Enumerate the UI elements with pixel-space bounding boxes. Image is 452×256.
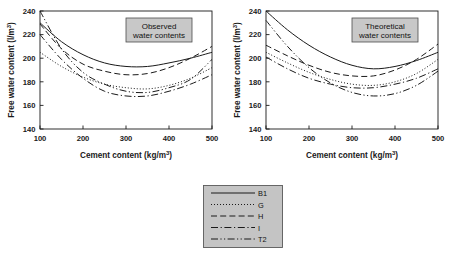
legend-label-g: G xyxy=(258,201,264,210)
x-tick-label: 400 xyxy=(389,134,402,143)
legend-label-b1: B1 xyxy=(258,189,267,198)
y-tick-label: 220 xyxy=(23,30,36,39)
legend-label-h: H xyxy=(258,212,263,221)
y-tick-label: 200 xyxy=(23,54,36,63)
y-axis-title: Free water content (l/m3) xyxy=(6,22,16,118)
panels-container: 100200300400500140160180200220240Cement … xyxy=(0,0,452,170)
x-tick-label: 100 xyxy=(34,134,47,143)
panel-title-line2: water contents xyxy=(358,31,411,40)
y-tick-label: 180 xyxy=(23,78,36,87)
y-axis-title: Free water content (l/m3) xyxy=(232,22,242,118)
chart-panel-theoretical: 100200300400500140160180200220240Cement … xyxy=(226,0,452,170)
panel-title-line1: Theoretical xyxy=(365,22,405,31)
y-tick-label: 160 xyxy=(23,101,36,110)
y-tick-label: 180 xyxy=(249,78,262,87)
x-tick-label: 200 xyxy=(303,134,316,143)
y-tick-label: 240 xyxy=(23,7,36,16)
series-line-h xyxy=(266,44,438,76)
y-tick-label: 140 xyxy=(249,125,262,134)
panel-title-line2: water contents xyxy=(132,31,185,40)
figure-root: 100200300400500140160180200220240Cement … xyxy=(0,0,452,256)
legend-label-t2: T2 xyxy=(258,235,267,244)
x-tick-label: 500 xyxy=(432,134,445,143)
chart-panel-observed: 100200300400500140160180200220240Cement … xyxy=(0,0,226,170)
x-tick-label: 100 xyxy=(260,134,273,143)
series-line-g xyxy=(266,52,438,85)
series-line-g xyxy=(40,52,212,89)
legend-label-i: I xyxy=(258,224,260,233)
panel-title-line1: Observed xyxy=(142,22,177,31)
y-tick-label: 220 xyxy=(249,30,262,39)
x-tick-label: 200 xyxy=(77,134,90,143)
x-tick-label: 300 xyxy=(346,134,359,143)
x-tick-label: 500 xyxy=(206,134,219,143)
legend-container: B1GHIT2 xyxy=(0,176,452,256)
x-tick-label: 400 xyxy=(163,134,176,143)
y-tick-label: 200 xyxy=(249,54,262,63)
y-tick-label: 240 xyxy=(249,7,262,16)
y-tick-label: 160 xyxy=(249,101,262,110)
x-tick-label: 300 xyxy=(120,134,133,143)
x-axis-title: Cement content (kg/m3) xyxy=(80,150,172,160)
y-tick-label: 140 xyxy=(23,125,36,134)
x-axis-title: Cement content (kg/m3) xyxy=(306,150,398,160)
series-line-i xyxy=(40,35,212,97)
legend-box: B1GHIT2 xyxy=(203,185,283,248)
